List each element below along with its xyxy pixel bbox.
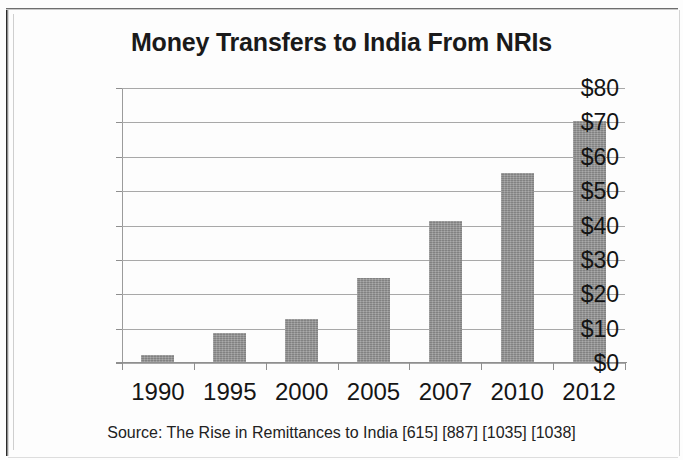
gridline	[122, 226, 625, 227]
y-axis-tick	[116, 88, 122, 89]
x-axis-tick	[553, 363, 554, 370]
gridline	[122, 191, 625, 192]
page-frame-left-edge	[6, 8, 9, 456]
chart-figure: Money Transfers to India From NRIs $ Bil…	[0, 0, 683, 460]
x-axis-tick	[122, 363, 123, 370]
x-axis-tick	[266, 363, 267, 370]
x-axis-tick-label: 1990	[131, 378, 184, 406]
y-axis-tick	[116, 294, 122, 295]
y-axis-tick-label: $0	[593, 350, 619, 377]
page-frame-bottom-edge	[8, 457, 678, 458]
chart-title: Money Transfers to India From NRIs	[0, 28, 683, 57]
x-axis-tick-label: 2012	[562, 378, 615, 406]
bar-2007	[429, 221, 462, 362]
page-frame-right-edge	[679, 10, 680, 456]
y-axis-tick-label: $60	[581, 143, 619, 170]
page-frame-left-inner-line	[13, 14, 14, 450]
gridline	[122, 363, 625, 364]
y-axis-tick	[116, 122, 122, 123]
y-axis-tick	[116, 157, 122, 158]
y-axis-tick-label: $80	[581, 75, 619, 102]
x-axis-tick-label: 2005	[347, 378, 400, 406]
x-axis-tick	[338, 363, 339, 370]
x-axis-tick-label: 1995	[203, 378, 256, 406]
plot-area	[122, 88, 625, 363]
bar-1995	[213, 333, 246, 362]
bar-2005	[357, 278, 390, 362]
y-axis-tick-label: $70	[581, 109, 619, 136]
y-axis-tick-label: $40	[581, 212, 619, 239]
y-axis-tick-label: $50	[581, 178, 619, 205]
bar-2010	[501, 173, 534, 362]
gridline	[122, 260, 625, 261]
x-axis-tick	[194, 363, 195, 370]
bar-1990	[141, 355, 174, 362]
y-axis-tick	[116, 191, 122, 192]
page-frame-top-edge	[6, 8, 678, 10]
bar-2000	[285, 319, 318, 362]
x-axis-tick-label: 2007	[419, 378, 472, 406]
x-axis-tick-label: 2000	[275, 378, 328, 406]
source-caption: Source: The Rise in Remittances to India…	[0, 424, 683, 442]
x-axis-tick	[481, 363, 482, 370]
gridline	[122, 122, 625, 123]
x-axis-tick-label: 2010	[491, 378, 544, 406]
gridline	[122, 157, 625, 158]
x-axis-tick	[625, 363, 626, 370]
y-axis-tick	[116, 226, 122, 227]
y-axis-tick	[116, 260, 122, 261]
x-axis-tick	[409, 363, 410, 370]
y-axis-tick	[116, 329, 122, 330]
y-axis-tick-label: $20	[581, 281, 619, 308]
y-axis-tick-label: $30	[581, 246, 619, 273]
y-axis-tick-label: $10	[581, 315, 619, 342]
gridline	[122, 88, 625, 89]
